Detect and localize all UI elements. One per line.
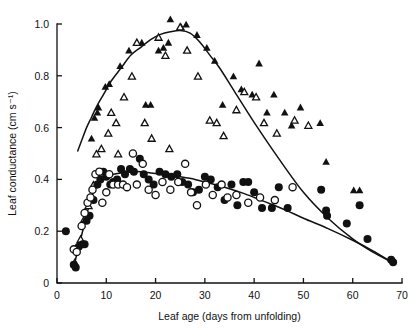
axes-group: 010203040506070 00.20.40.60.81.0 — [34, 18, 408, 301]
data-point-open-circle — [224, 194, 231, 201]
data-point-filled-circle — [72, 263, 80, 271]
y-axis-title: Leaf conductance (cm s⁻¹) — [6, 91, 18, 215]
data-point-open-circle — [202, 181, 209, 188]
data-point-filled-circle — [389, 258, 397, 266]
data-point-open-circle — [78, 222, 85, 229]
data-point-open-circle — [133, 181, 140, 188]
data-point-filled-triangle — [230, 73, 238, 80]
data-point-open-circle — [87, 194, 94, 201]
x-tick-label: 60 — [347, 289, 359, 301]
data-point-open-circle — [73, 248, 80, 255]
y-tick-label: 0.8 — [34, 70, 49, 82]
data-point-open-circle — [193, 202, 200, 209]
data-point-filled-circle — [258, 204, 266, 212]
axis-frame — [57, 24, 402, 283]
data-point-open-triangle — [184, 47, 191, 53]
data-point-open-circle — [256, 194, 263, 201]
data-point-open-circle — [218, 181, 225, 188]
data-point-open-triangle — [113, 119, 120, 125]
y-tick-label: 0.2 — [34, 225, 49, 237]
data-point-filled-circle — [173, 170, 181, 178]
y-axis-tick-marks — [57, 24, 62, 283]
data-point-filled-triangle — [125, 47, 133, 54]
data-point-open-triangle — [177, 24, 184, 30]
data-point-filled-triangle — [322, 158, 330, 165]
data-point-open-circle — [271, 197, 278, 204]
data-point-filled-triangle — [167, 16, 175, 23]
data-point-filled-circle — [62, 227, 70, 235]
data-point-filled-triangle — [219, 101, 227, 108]
data-point-open-triangle — [133, 39, 140, 45]
y-tick-label: 1.0 — [34, 18, 49, 30]
x-tick-label: 70 — [396, 289, 408, 301]
data-point-open-circle — [233, 191, 240, 198]
data-point-open-circle — [209, 191, 216, 198]
data-point-open-triangle — [220, 132, 227, 138]
data-point-filled-circle — [356, 201, 364, 209]
x-tick-label: 0 — [54, 289, 60, 301]
x-axis-tick-labels: 010203040506070 — [54, 289, 408, 301]
data-point-open-triangle — [105, 130, 112, 136]
data-markers-group — [62, 16, 397, 272]
data-point-open-triangle — [148, 135, 155, 141]
data-point-filled-triangle — [270, 91, 278, 98]
data-point-filled-circle — [233, 201, 241, 209]
data-point-open-triangle — [291, 117, 298, 123]
data-point-filled-circle — [284, 204, 292, 212]
data-point-filled-circle — [244, 178, 252, 186]
data-point-open-triangle — [213, 119, 220, 125]
data-point-open-circle — [106, 171, 113, 178]
data-point-open-circle — [103, 189, 110, 196]
x-tick-label: 40 — [248, 289, 260, 301]
data-point-open-circle — [89, 186, 96, 193]
data-point-open-circle — [123, 184, 130, 191]
data-point-open-triangle — [141, 119, 148, 125]
data-point-filled-circle — [268, 204, 276, 212]
data-point-open-triangle — [121, 93, 128, 99]
data-point-filled-triangle — [281, 109, 289, 116]
data-point-filled-triangle — [297, 104, 305, 111]
data-point-filled-circle — [81, 240, 89, 248]
data-point-filled-triangle — [350, 186, 358, 193]
data-point-filled-triangle — [263, 109, 271, 116]
data-point-open-triangle — [305, 122, 312, 128]
data-point-filled-triangle — [105, 80, 113, 87]
data-point-filled-triangle — [316, 119, 324, 126]
data-point-open-triangle — [115, 150, 122, 156]
x-tick-label: 30 — [199, 289, 211, 301]
data-point-open-circle — [289, 184, 296, 191]
series-open-triangle — [71, 24, 312, 266]
data-point-filled-circle — [195, 186, 203, 194]
data-point-filled-triangle — [193, 31, 201, 38]
data-point-filled-circle — [317, 186, 325, 194]
y-tick-label: 0.4 — [34, 173, 49, 185]
data-point-open-triangle — [128, 73, 135, 79]
data-point-open-circle — [182, 160, 189, 167]
data-point-filled-circle — [275, 183, 283, 191]
data-point-filled-circle — [130, 168, 138, 176]
x-tick-label: 50 — [298, 289, 310, 301]
figure-container: 010203040506070 00.20.40.60.81.0 Leaf ag… — [0, 0, 419, 330]
data-point-open-circle — [187, 189, 194, 196]
x-tick-label: 10 — [100, 289, 112, 301]
data-point-open-circle — [129, 150, 136, 157]
data-point-open-triangle — [166, 145, 173, 151]
data-point-open-circle — [96, 168, 103, 175]
data-point-open-circle — [81, 209, 88, 216]
data-point-filled-triangle — [88, 135, 96, 142]
data-point-filled-triangle — [356, 186, 364, 193]
data-point-open-circle — [167, 186, 174, 193]
data-point-open-circle — [99, 199, 106, 206]
data-point-open-circle — [139, 160, 146, 167]
data-point-open-circle — [245, 199, 252, 206]
data-point-open-triangle — [273, 130, 280, 136]
y-tick-label: 0 — [43, 277, 49, 289]
data-point-filled-circle — [184, 181, 192, 189]
data-point-filled-triangle — [165, 39, 173, 46]
data-point-filled-triangle — [255, 60, 263, 67]
y-axis-tick-labels: 00.20.40.60.81.0 — [34, 18, 49, 289]
data-point-open-circle — [159, 178, 166, 185]
x-tick-label: 20 — [150, 289, 162, 301]
scatter-plot: 010203040506070 00.20.40.60.81.0 Leaf ag… — [0, 0, 419, 330]
data-point-open-triangle — [206, 117, 213, 123]
